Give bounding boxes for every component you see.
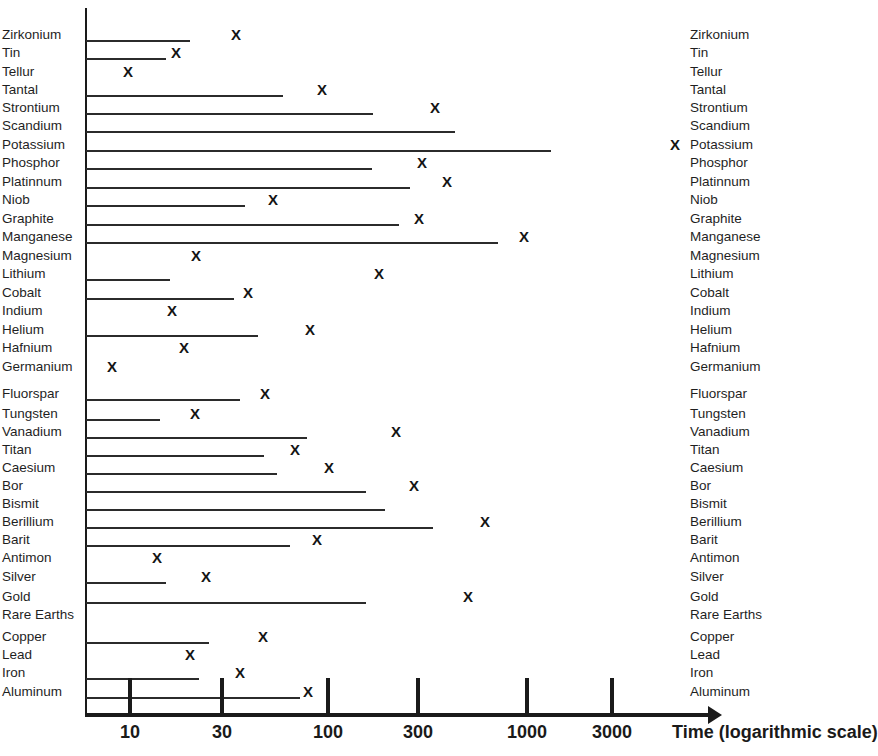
- x-axis-line: [85, 713, 710, 717]
- x-marker: X: [185, 647, 195, 662]
- range-bar: [86, 205, 245, 207]
- row-label-right: Cobalt: [690, 286, 729, 300]
- row-label-left: Copper: [2, 630, 46, 644]
- row-label-right: Lead: [690, 648, 720, 662]
- range-bar: [86, 678, 199, 680]
- x-marker: X: [391, 424, 401, 439]
- range-bar: [86, 224, 399, 226]
- row-label-right: Vanadium: [690, 425, 750, 439]
- row-label-right: Niob: [690, 193, 718, 207]
- x-marker: X: [231, 27, 241, 42]
- row-label-right: Zirkonium: [690, 28, 749, 42]
- range-bar: [86, 279, 170, 281]
- row-label-left: Vanadium: [2, 425, 62, 439]
- x-marker: X: [324, 460, 334, 475]
- row-label-right: Strontium: [690, 101, 748, 115]
- row-label-left: Titan: [2, 443, 32, 457]
- range-bar: [86, 187, 410, 189]
- x-marker: X: [519, 229, 529, 244]
- row-label-right: Hafnium: [690, 341, 740, 355]
- row-label-right: Berillium: [690, 515, 742, 529]
- x-marker: X: [305, 322, 315, 337]
- row-label-right: Titan: [690, 443, 720, 457]
- row-label-left: Bor: [2, 479, 23, 493]
- range-bar: [86, 58, 166, 60]
- row-label-left: Rare Earths: [2, 608, 74, 622]
- row-label-left: Tungsten: [2, 407, 58, 421]
- row-label-right: Barit: [690, 533, 718, 547]
- row-label-left: Graphite: [2, 212, 54, 226]
- x-marker: X: [171, 45, 181, 60]
- range-bar: [86, 455, 264, 457]
- row-label-left: Platinnum: [2, 175, 62, 189]
- range-bar: [86, 242, 498, 244]
- row-label-left: Manganese: [2, 230, 73, 244]
- row-label-right: Indium: [690, 304, 731, 318]
- x-marker: X: [107, 359, 117, 374]
- x-axis-tick: [525, 678, 529, 716]
- row-label-right: Aluminum: [690, 685, 750, 699]
- x-marker: X: [191, 248, 201, 263]
- x-marker: X: [442, 174, 452, 189]
- row-label-left: Strontium: [2, 101, 60, 115]
- row-label-right: Platinnum: [690, 175, 750, 189]
- row-label-right: Antimon: [690, 551, 740, 565]
- range-bar: [86, 437, 307, 439]
- range-bar: [86, 335, 258, 337]
- x-axis-tick-label: 300: [403, 722, 433, 743]
- row-label-right: Tellur: [690, 65, 722, 79]
- x-marker: X: [414, 211, 424, 226]
- row-label-left: Scandium: [2, 119, 62, 133]
- range-bar: [86, 697, 300, 699]
- range-bar: [86, 168, 372, 170]
- row-label-right: Fluorspar: [690, 387, 747, 401]
- row-label-left: Tellur: [2, 65, 34, 79]
- range-bar: [86, 399, 240, 401]
- row-label-right: Rare Earths: [690, 608, 762, 622]
- row-label-right: Manganese: [690, 230, 761, 244]
- x-marker: X: [303, 684, 313, 699]
- x-marker: X: [463, 589, 473, 604]
- row-label-right: Silver: [690, 570, 724, 584]
- x-marker: X: [260, 386, 270, 401]
- x-marker: X: [409, 478, 419, 493]
- x-axis-tick-label: 10: [120, 722, 140, 743]
- row-label-right: Bismit: [690, 497, 727, 511]
- x-marker: X: [430, 100, 440, 115]
- x-axis-tick: [610, 678, 614, 716]
- row-label-left: Antimon: [2, 551, 52, 565]
- row-label-left: Germanium: [2, 360, 73, 374]
- row-label-right: Tantal: [690, 83, 726, 97]
- row-label-right: Helium: [690, 323, 732, 337]
- row-label-right: Copper: [690, 630, 734, 644]
- x-axis-tick-label: 1000: [507, 722, 547, 743]
- range-bar: [86, 642, 209, 644]
- row-label-right: Tungsten: [690, 407, 746, 421]
- row-label-right: Iron: [690, 666, 713, 680]
- range-bar: [86, 582, 166, 584]
- x-axis-tick-label: 30: [212, 722, 232, 743]
- row-label-left: Hafnium: [2, 341, 52, 355]
- range-bar: [86, 473, 277, 475]
- range-bar: [86, 602, 366, 604]
- row-label-left: Niob: [2, 193, 30, 207]
- range-bar: [86, 150, 551, 152]
- row-label-left: Zirkonium: [2, 28, 61, 42]
- row-label-right: Graphite: [690, 212, 742, 226]
- range-bar: [86, 298, 234, 300]
- row-label-left: Cobalt: [2, 286, 41, 300]
- row-label-left: Magnesium: [2, 249, 72, 263]
- range-bar: [86, 40, 190, 42]
- y-axis-line: [85, 8, 87, 714]
- row-label-left: Iron: [2, 666, 25, 680]
- row-label-left: Potassium: [2, 138, 65, 152]
- row-label-left: Tantal: [2, 83, 38, 97]
- x-marker: X: [290, 442, 300, 457]
- row-label-right: Germanium: [690, 360, 761, 374]
- range-bar: [86, 419, 160, 421]
- x-marker: X: [312, 532, 322, 547]
- x-marker: X: [179, 340, 189, 355]
- range-bar: [86, 527, 433, 529]
- row-label-right: Bor: [690, 479, 711, 493]
- range-bar: [86, 131, 455, 133]
